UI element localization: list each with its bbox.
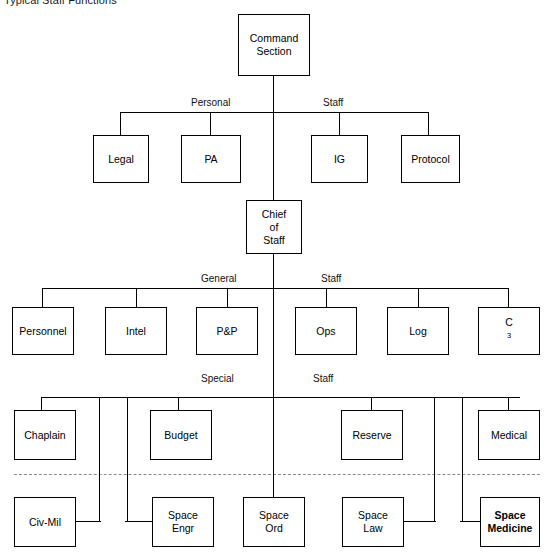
connector-drop-protocol xyxy=(428,112,429,135)
bus-general-staff xyxy=(42,288,508,289)
connector-elbow-space-medicine xyxy=(460,521,480,522)
node-pa: PA xyxy=(181,135,241,183)
connector-elbow-space-law xyxy=(404,521,436,522)
node-chaplain-label: Chaplain xyxy=(22,429,67,442)
node-space-medicine: Space Medicine xyxy=(480,497,540,547)
connector-drop-reserve xyxy=(371,397,372,410)
node-ig: IG xyxy=(311,135,368,183)
node-reserve-label: Reserve xyxy=(350,429,393,442)
node-space-engr-line2: Engr xyxy=(166,522,200,535)
node-chaplain: Chaplain xyxy=(14,410,76,460)
node-space-law: Space Law xyxy=(342,497,404,547)
connector-command-to-personal-bus xyxy=(273,76,274,112)
node-ops: Ops xyxy=(295,307,357,355)
node-legal: Legal xyxy=(93,135,149,183)
connector-drop-legal xyxy=(120,112,121,135)
node-budget-label: Budget xyxy=(162,429,199,442)
node-chief-of-staff-line1: Chief xyxy=(260,208,289,221)
node-legal-label: Legal xyxy=(106,153,136,166)
connector-drop-medical xyxy=(508,397,509,410)
connector-special-bus-to-space-ord xyxy=(273,397,274,497)
connector-drop-log xyxy=(418,288,419,307)
node-budget: Budget xyxy=(150,410,212,460)
bus-label-special-staff: Staff xyxy=(310,373,336,384)
node-pa-label: PA xyxy=(202,153,219,166)
node-personnel: Personnel xyxy=(12,307,74,355)
node-command-section-line1: Command xyxy=(248,32,300,45)
node-civ-mil-line1: Civ-Mil xyxy=(27,516,63,529)
connector-drop-civ-mil xyxy=(99,397,100,521)
connector-drop-pa xyxy=(210,112,211,135)
node-space-law-line2: Law xyxy=(356,522,390,535)
connector-drop-budget xyxy=(178,397,179,410)
connector-elbow-civ-mil xyxy=(76,521,101,522)
node-command-section-line2: Section xyxy=(248,45,300,58)
node-pandp-label: P&P xyxy=(214,325,239,338)
node-chief-of-staff-line2: of xyxy=(260,221,289,234)
connector-elbow-space-engr xyxy=(125,521,152,522)
node-space-engr: Space Engr xyxy=(152,497,214,547)
bus-label-special: Special xyxy=(198,373,237,384)
connector-drop-ops xyxy=(326,288,327,307)
node-c3-base: C xyxy=(503,316,515,329)
node-intel-label: Intel xyxy=(124,325,148,338)
bus-label-general-staff: Staff xyxy=(318,273,344,284)
connector-general-bus-to-special-bus xyxy=(273,288,274,402)
node-space-ord: Space Ord xyxy=(243,497,305,547)
node-intel: Intel xyxy=(105,307,167,355)
node-log: Log xyxy=(387,307,449,355)
node-chief-of-staff-line3: Staff xyxy=(260,234,289,247)
connector-drop-space-law xyxy=(434,397,435,521)
node-chief-of-staff: Chief of Staff xyxy=(246,200,302,254)
node-space-medicine-line2: Medicine xyxy=(486,522,535,535)
connector-drop-personnel xyxy=(42,288,43,307)
node-medical: Medical xyxy=(478,410,540,460)
connector-drop-pandp xyxy=(227,288,228,307)
node-space-ord-line1: Space xyxy=(257,509,291,522)
connector-drop-ig xyxy=(339,112,340,135)
connector-drop-space-medicine xyxy=(462,397,463,521)
org-chart-diagram: Typical Staff Functions Command Section … xyxy=(0,0,553,558)
connector-drop-intel xyxy=(136,288,137,307)
connector-drop-space-engr xyxy=(127,397,128,521)
node-reserve: Reserve xyxy=(341,410,403,460)
node-civ-mil: Civ-Mil xyxy=(14,497,76,547)
node-pandp: P&P xyxy=(196,307,258,355)
bus-personal-staff xyxy=(120,112,428,113)
node-command-section: Command Section xyxy=(238,14,310,76)
node-space-engr-line1: Space xyxy=(166,509,200,522)
bus-label-personal-staff: Staff xyxy=(320,97,346,108)
node-space-ord-line2: Ord xyxy=(257,522,291,535)
page-title: Typical Staff Functions xyxy=(4,0,117,6)
node-log-label: Log xyxy=(407,325,429,338)
bus-label-general: General xyxy=(198,273,240,284)
bus-label-personal: Personal xyxy=(188,97,233,108)
node-ig-label: IG xyxy=(332,153,347,166)
node-c3-superscript: 3 xyxy=(507,331,511,340)
connector-personal-bus-to-chief xyxy=(273,112,274,200)
node-c3: C3 xyxy=(478,307,540,355)
node-ops-label: Ops xyxy=(314,325,337,338)
bus-special-staff xyxy=(41,397,520,398)
node-protocol: Protocol xyxy=(401,135,460,183)
node-medical-label: Medical xyxy=(489,429,529,442)
node-space-law-line1: Space xyxy=(356,509,390,522)
connector-drop-chaplain xyxy=(41,397,42,410)
node-personnel-label: Personnel xyxy=(17,325,68,338)
node-space-medicine-line1: Space xyxy=(486,509,535,522)
connector-drop-c3 xyxy=(508,288,509,307)
node-protocol-label: Protocol xyxy=(409,153,452,166)
